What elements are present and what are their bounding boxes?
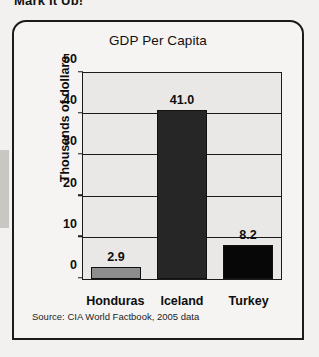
y-tick-label: 20 [63,176,77,190]
bars-group: 2.941.08.2 [83,73,281,279]
plot-wrapper: Thousands of dollars 01020304050 2.941.0… [28,62,288,280]
y-axis-title: Thousands of dollars [58,44,72,194]
bar-value-label: 8.2 [215,228,281,242]
y-tick-label: 0 [70,258,77,272]
bar-slot: 8.2 [215,73,281,279]
bar-slot: 2.9 [83,73,149,279]
bar-value-label: 2.9 [83,250,149,264]
y-tick-label: 40 [63,93,77,107]
bar[interactable] [91,267,141,279]
y-tick-label: 30 [63,134,77,148]
category-label: Turkey [215,294,282,308]
bar[interactable] [157,110,207,279]
category-label: Iceland [149,294,216,308]
y-tick-label: 10 [63,217,77,231]
y-tick-label: 50 [63,52,77,66]
bar-slot: 41.0 [149,73,215,279]
bar[interactable] [223,245,273,279]
category-labels-group: HondurasIcelandTurkey [82,294,282,312]
source-note: Source: CIA World Factbook, 2005 data [32,311,199,322]
left-margin-band [0,150,9,228]
page-heading: Mark It Up! [14,0,83,5]
chart-figure-card: GDP Per Capita Thousands of dollars 0102… [12,20,304,340]
category-label: Honduras [82,294,149,308]
bar-value-label: 41.0 [149,93,215,107]
plot-area: 01020304050 2.941.08.2 [82,72,282,280]
